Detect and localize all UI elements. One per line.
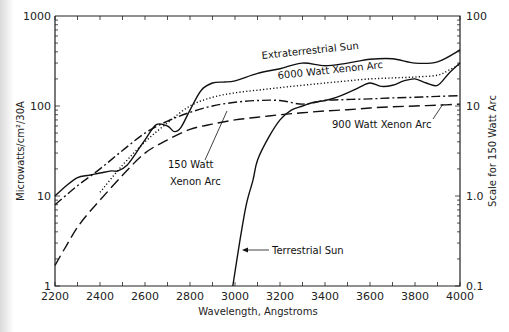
y-axis-title: Microwatts/cm²/30A — [15, 101, 26, 201]
y2-axis-title: Scale for 150 Watt Arc — [487, 95, 498, 207]
label-900w-xenon: 900 Watt Xenon Arc — [332, 119, 431, 130]
label-6000w-xenon: 6000 Watt Xenon Arc — [277, 59, 383, 81]
plot-frame — [55, 16, 460, 286]
y-tick-labels: 1101001000 — [23, 10, 51, 293]
x-tick-label: 3200 — [266, 290, 294, 303]
x-tick-label: 3800 — [401, 290, 429, 303]
x-tick-label: 3600 — [356, 290, 384, 303]
y-tick-label: 100 — [30, 100, 51, 113]
axis-ticks — [55, 16, 460, 286]
arrowhead-terrestrial-sun — [242, 248, 248, 253]
arrow-150w-xenon — [205, 111, 227, 160]
x-tick-labels: 2200240026002800300032003400360038004000 — [41, 290, 474, 303]
y2-tick-labels: 0.11.010100 — [466, 10, 487, 293]
x-tick-label: 2400 — [86, 290, 114, 303]
data-curves — [55, 50, 460, 286]
spectral-irradiance-chart: 2200240026002800300032003400360038004000… — [0, 0, 509, 332]
y-tick-label: 1000 — [23, 10, 51, 23]
axes-box — [55, 16, 460, 286]
label-150w-xenon-line2: Xenon Arc — [170, 176, 221, 187]
y2-tick-label: 10 — [466, 100, 480, 113]
x-tick-label: 3400 — [311, 290, 339, 303]
curve-terrestrial-sun — [233, 63, 460, 286]
y2-tick-label: 0.1 — [466, 280, 484, 293]
x-tick-label: 2800 — [176, 290, 204, 303]
y-tick-label: 10 — [37, 190, 51, 203]
y2-tick-label: 100 — [466, 10, 487, 23]
y-tick-label: 1 — [44, 280, 51, 293]
x-axis-title: Wavelength, Angstroms — [198, 306, 317, 317]
x-tick-label: 2600 — [131, 290, 159, 303]
label-extraterrestrial-sun: Extraterrestrial Sun — [261, 40, 359, 61]
arrow-900w-xenon — [433, 104, 443, 119]
curve-150-watt-xenon-arc — [55, 96, 460, 205]
label-150w-xenon-line1: 150 Watt — [168, 159, 214, 170]
y2-tick-label: 1.0 — [466, 190, 484, 203]
label-terrestrial-sun: Terrestrial Sun — [271, 245, 344, 256]
x-tick-label: 3000 — [221, 290, 249, 303]
